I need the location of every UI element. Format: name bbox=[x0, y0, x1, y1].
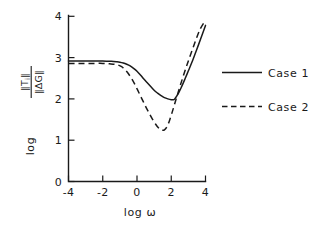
x-axis-title: log ω bbox=[124, 206, 156, 219]
y-tick-label-3: 3 bbox=[55, 52, 62, 65]
legend-label-case-1: Case 1 bbox=[268, 67, 309, 80]
series-group bbox=[69, 20, 206, 130]
y-axis-title-fraction: ‖Ti‖ ‖ΔG‖ bbox=[19, 66, 44, 98]
legend-item-case-1[interactable]: Case 1 bbox=[222, 67, 309, 80]
x-axis-tick-labels: -4 -2 0 2 4 bbox=[63, 186, 209, 199]
series-line-case-2 bbox=[69, 20, 206, 130]
y-axis-title-log: log bbox=[24, 137, 37, 156]
x-tick-label-4: 4 bbox=[202, 186, 209, 199]
numerator-tail: ‖ bbox=[19, 73, 30, 78]
y-tick-label-1: 1 bbox=[55, 134, 62, 147]
y-axis-title-numerator: ‖Ti‖ bbox=[19, 73, 33, 91]
y-tick-label-0: 0 bbox=[55, 176, 62, 189]
x-tick-label-0: 0 bbox=[133, 186, 140, 199]
y-axis-title-denominator: ‖ΔG‖ bbox=[33, 70, 44, 94]
x-tick-label-2: 2 bbox=[168, 186, 175, 199]
x-tick-label-neg4: -4 bbox=[63, 186, 75, 199]
chart-canvas: 0 1 2 3 4 -4 -2 0 2 4 log ω log bbox=[0, 0, 317, 230]
x-axis-ticks bbox=[69, 176, 206, 182]
chart-figure: 0 1 2 3 4 -4 -2 0 2 4 log ω log bbox=[0, 0, 317, 230]
legend-label-case-2: Case 2 bbox=[268, 101, 309, 114]
y-axis-tick-labels: 0 1 2 3 4 bbox=[55, 10, 62, 188]
legend: Case 1 Case 2 bbox=[222, 67, 309, 114]
y-tick-label-2: 2 bbox=[55, 93, 62, 106]
x-tick-label-neg2: -2 bbox=[97, 186, 109, 199]
legend-item-case-2[interactable]: Case 2 bbox=[222, 101, 309, 114]
axis-lines bbox=[69, 16, 206, 182]
axes-group bbox=[69, 16, 206, 182]
y-tick-label-4: 4 bbox=[55, 10, 62, 23]
numerator-main: ‖T bbox=[19, 80, 30, 91]
y-axis-ticks bbox=[69, 16, 75, 181]
y-axis-title-group: log ‖Ti‖ ‖ΔG‖ bbox=[19, 66, 44, 155]
